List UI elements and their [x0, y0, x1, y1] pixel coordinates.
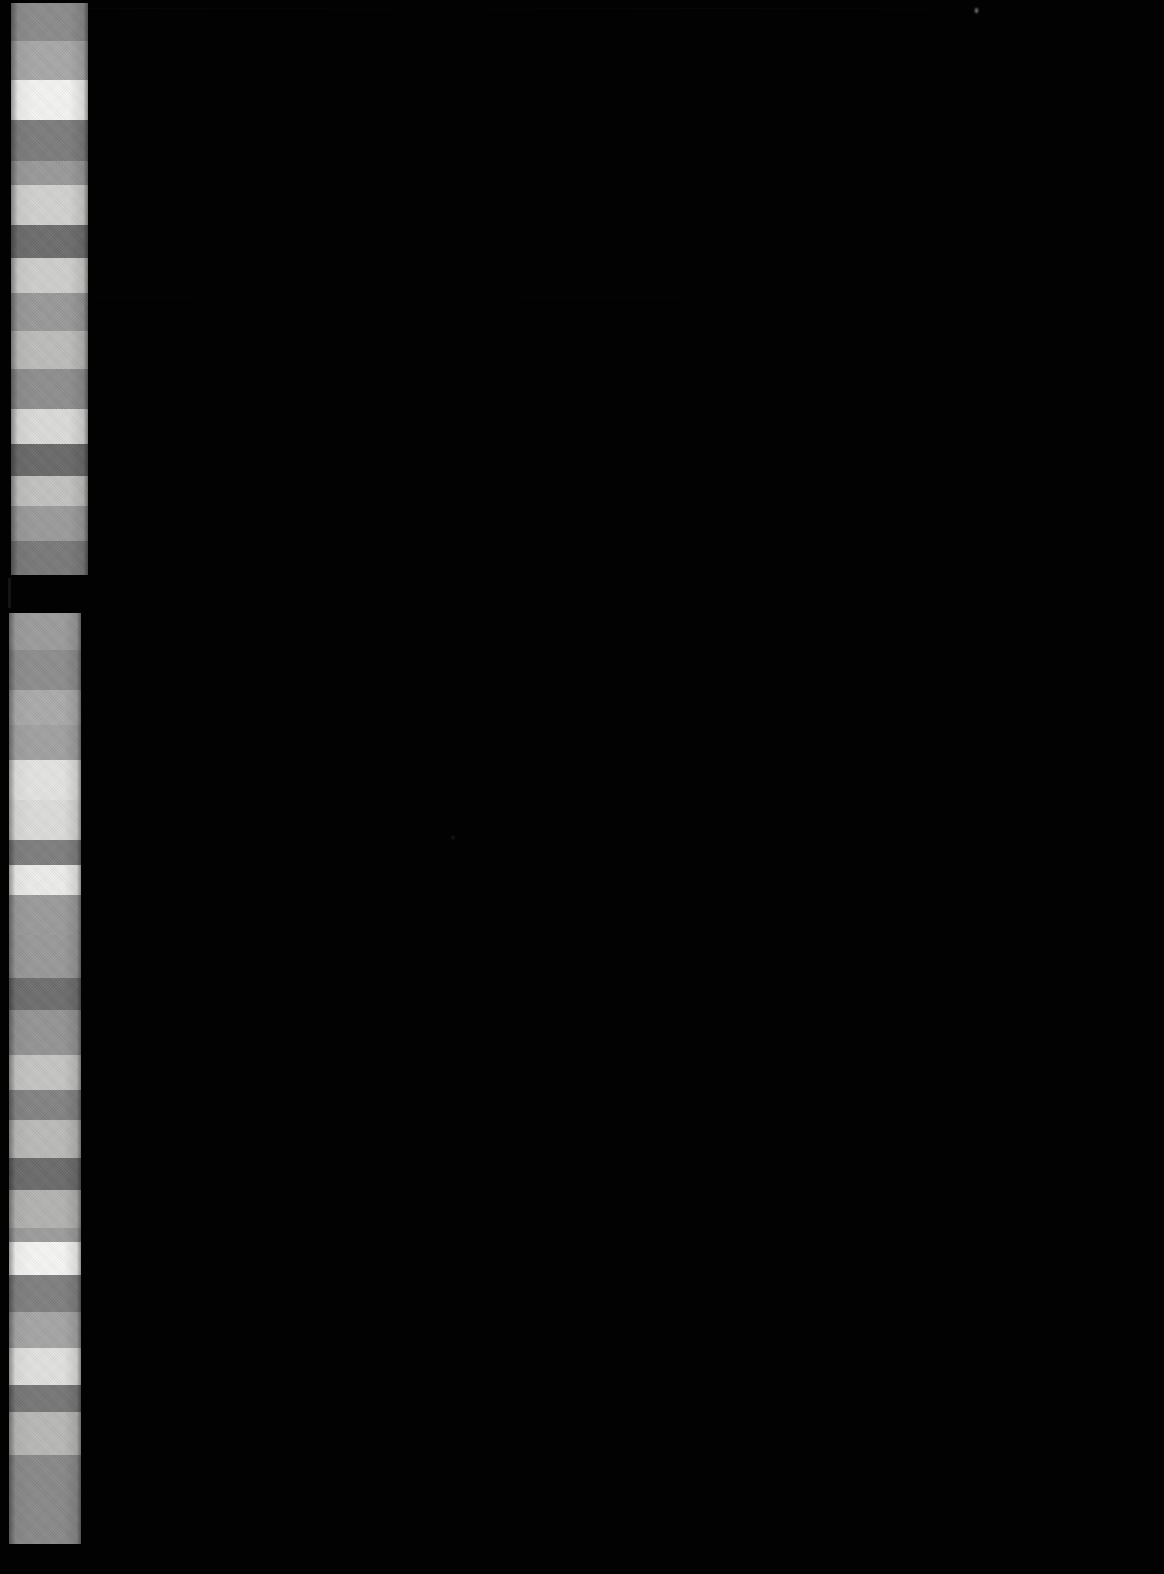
wedge-step-patch: [11, 41, 88, 80]
wedge-step-patch: [11, 506, 88, 541]
hot-pixel-icon: [452, 836, 454, 839]
wedge-step-patch: [11, 120, 88, 161]
wedge-step-patch: [11, 476, 88, 506]
wedge-step-patch: [9, 725, 81, 760]
wedge-step-patch: [9, 1090, 81, 1120]
wedge-step-patch: [11, 3, 88, 41]
wedge-step-patch: [9, 1120, 81, 1158]
wedge-step-patch: [9, 690, 81, 725]
wedge-step-patch: [11, 258, 88, 293]
wedge-step-patch: [11, 369, 88, 409]
wedge-step-patch: [9, 760, 81, 800]
hot-pixel-icon: [975, 8, 978, 13]
wedge-step-patch: [9, 895, 81, 935]
scan-canvas: [0, 0, 1164, 1574]
wedge-step-patch: [11, 80, 88, 120]
scan-streak-upper: [0, 297, 980, 298]
scan-streak-mid: [0, 393, 760, 394]
wedge-step-patch: [9, 978, 81, 1010]
wedge-step-patch: [9, 1010, 81, 1055]
film-grain-overlay: [0, 0, 1164, 1574]
wedge-gap-sliver: [8, 578, 11, 608]
wedge-step-patch: [9, 1190, 81, 1228]
wedge-step-patch: [9, 1412, 81, 1455]
step-wedge-lower: [9, 613, 81, 1574]
wedge-step-patch: [11, 409, 88, 444]
wedge-step-patch: [9, 650, 81, 690]
wedge-step-patch: [9, 1158, 81, 1190]
wedge-step-patch: [9, 1228, 81, 1242]
wedge-step-patch: [9, 1385, 81, 1412]
wedge-step-patch: [9, 800, 81, 840]
wedge-step-patch: [11, 161, 88, 185]
wedge-step-patch: [9, 935, 81, 978]
wedge-step-patch: [11, 444, 88, 476]
wedge-step-patch: [9, 1455, 81, 1544]
wedge-step-patch: [9, 1275, 81, 1312]
wedge-step-patch: [11, 331, 88, 369]
wedge-step-patch: [9, 1055, 81, 1090]
scan-streak-top: [0, 8, 1164, 9]
scan-streak-lower: [0, 905, 640, 906]
wedge-step-patch: [11, 293, 88, 331]
wedge-step-patch: [9, 1312, 81, 1348]
step-wedge-upper: [11, 3, 88, 575]
wedge-step-patch: [9, 840, 81, 865]
wedge-step-patch: [9, 1348, 81, 1385]
wedge-step-patch: [11, 185, 88, 225]
wedge-step-patch: [9, 1242, 81, 1275]
wedge-step-patch: [11, 541, 88, 575]
wedge-step-patch: [11, 225, 88, 258]
wedge-step-patch: [9, 865, 81, 895]
wedge-step-patch: [9, 613, 81, 650]
